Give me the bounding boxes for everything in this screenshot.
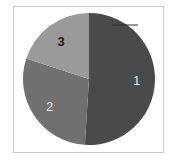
- slice-label-2: 2: [46, 99, 53, 114]
- slice-label-3: 3: [57, 34, 64, 49]
- pie-slice-1: [85, 13, 155, 145]
- pie-chart: 123: [0, 0, 171, 166]
- slice-label-1: 1: [133, 73, 140, 88]
